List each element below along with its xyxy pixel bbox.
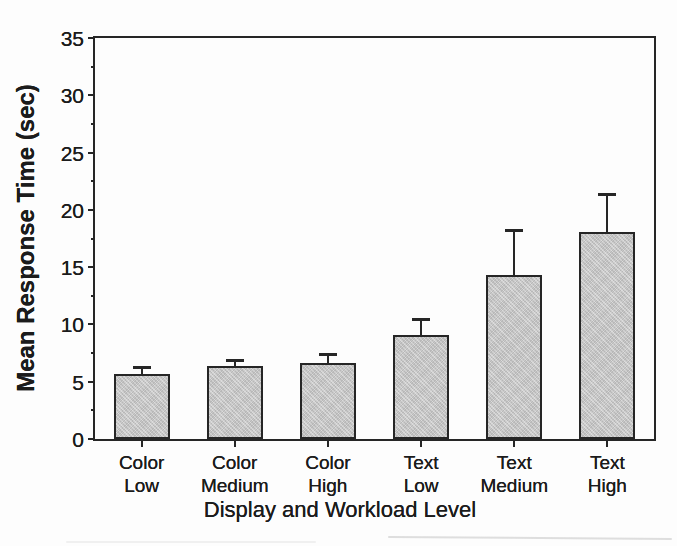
y-major-tick bbox=[88, 381, 95, 383]
error-bar-cap bbox=[133, 366, 151, 369]
x-tick bbox=[420, 441, 422, 447]
y-tick-label: 10 bbox=[38, 314, 84, 335]
y-minor-tick bbox=[91, 409, 95, 411]
error-bar-cap bbox=[505, 229, 523, 232]
y-tick-label: 5 bbox=[38, 371, 84, 392]
y-minor-tick bbox=[91, 180, 95, 182]
bar bbox=[393, 335, 449, 439]
x-axis-title: Display and Workload Level bbox=[40, 497, 640, 523]
x-tick bbox=[234, 441, 236, 447]
plot-area: 05101520253035ColorLowColorMediumColorHi… bbox=[93, 36, 656, 441]
category-label: TextHigh bbox=[547, 451, 667, 497]
y-major-tick bbox=[88, 438, 95, 440]
figure: Mean Response Time (sec) 05101520253035C… bbox=[0, 0, 677, 546]
y-minor-tick bbox=[91, 238, 95, 240]
bar bbox=[486, 275, 542, 439]
y-tick-label: 30 bbox=[38, 85, 84, 106]
y-major-tick bbox=[88, 266, 95, 268]
scan-artifact-line bbox=[388, 536, 672, 540]
y-tick-label: 35 bbox=[38, 28, 84, 49]
y-minor-tick bbox=[91, 352, 95, 354]
bar bbox=[114, 374, 170, 439]
y-tick-label: 0 bbox=[38, 429, 84, 450]
y-major-tick bbox=[88, 209, 95, 211]
bar bbox=[579, 232, 635, 439]
y-major-tick bbox=[88, 37, 95, 39]
y-tick-label: 15 bbox=[38, 257, 84, 278]
bar bbox=[300, 363, 356, 439]
y-major-tick bbox=[88, 94, 95, 96]
error-bar-line bbox=[420, 319, 422, 335]
error-bar-cap bbox=[598, 193, 616, 196]
y-minor-tick bbox=[91, 123, 95, 125]
category-label-line: Text bbox=[547, 451, 667, 474]
y-tick-label: 25 bbox=[38, 142, 84, 163]
bar bbox=[207, 366, 263, 439]
y-axis-title: Mean Response Time (sec) bbox=[12, 84, 40, 392]
error-bar-cap bbox=[226, 359, 244, 362]
y-major-tick bbox=[88, 152, 95, 154]
category-label-line: High bbox=[547, 474, 667, 497]
x-tick bbox=[141, 441, 143, 447]
x-tick bbox=[327, 441, 329, 447]
y-major-tick bbox=[88, 323, 95, 325]
scan-artifact-line bbox=[66, 541, 316, 543]
x-tick bbox=[606, 441, 608, 447]
error-bar-cap bbox=[319, 353, 337, 356]
y-tick-label: 20 bbox=[38, 199, 84, 220]
error-bar-line bbox=[513, 230, 515, 275]
y-minor-tick bbox=[91, 66, 95, 68]
error-bar-line bbox=[606, 194, 608, 232]
y-minor-tick bbox=[91, 295, 95, 297]
error-bar-cap bbox=[412, 318, 430, 321]
x-tick bbox=[513, 441, 515, 447]
